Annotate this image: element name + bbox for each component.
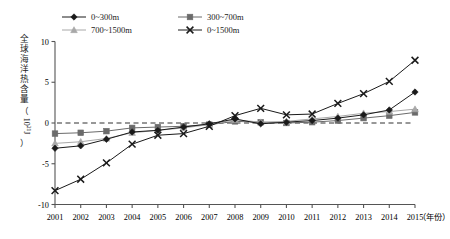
y-tick-label: 10 — [41, 38, 49, 47]
x-tick-label: 2014 — [381, 213, 398, 222]
x-tick-label: 2002 — [72, 213, 89, 222]
series-marker — [412, 89, 418, 95]
y-axis-title-char-3: 洋 — [20, 63, 29, 74]
y-axis-title-paren-open: （ — [20, 106, 29, 116]
series-marker — [104, 128, 110, 134]
series-line — [55, 60, 415, 190]
x-tick-label: 2009 — [252, 213, 269, 222]
x-tick-label: 2007 — [201, 213, 218, 222]
legend-marker — [187, 14, 193, 20]
y-axis-title-char-4: 热 — [20, 73, 29, 84]
legend-item-300-700m: 300~700m — [178, 12, 244, 22]
y-axis-unit-text: 1021J — [22, 118, 32, 135]
x-tick-label: 2010 — [278, 213, 295, 222]
chart-legend: 0~300m300~700m700~1500m0~1500m — [62, 12, 244, 35]
x-tick-label: 2011 — [304, 213, 320, 222]
legend-label: 300~700m — [207, 12, 244, 22]
x-tick-label: 2008 — [227, 213, 244, 222]
y-axis-title-paren-close: ） — [20, 138, 29, 148]
y-tick-label: 0 — [45, 119, 49, 128]
x-tick-label: 2001 — [47, 213, 64, 222]
y-tick-label: -5 — [42, 160, 49, 169]
y-axis-title: 全 球 海 洋 热 含 量 （ 1021J ） — [20, 33, 32, 148]
y-axis-title-char-0: 全 — [20, 33, 29, 44]
x-tick-label: 2006 — [175, 213, 192, 222]
y-axis-title-char-2: 海 — [20, 53, 29, 64]
legend-marker — [71, 14, 77, 20]
plot-area: 1050-5-102001200220032004200520062007200… — [38, 38, 450, 222]
y-tick-label: 5 — [45, 78, 49, 87]
series-marker — [103, 136, 109, 142]
x-tick-label: 2013 — [355, 213, 372, 222]
x-tick-label: 2004 — [124, 213, 141, 222]
legend-label: 700~1500m — [91, 25, 132, 35]
legend-label: 0~300m — [91, 12, 120, 22]
y-axis-title-char-6: 量 — [20, 94, 29, 104]
legend-item-0-300m: 0~300m — [62, 12, 120, 22]
x-tick-label: 2005 — [150, 213, 167, 222]
legend-label: 0~1500m — [207, 25, 240, 35]
y-axis-title-char-5: 含 — [20, 83, 29, 94]
x-tick-label: 2003 — [98, 213, 115, 222]
legend-item-0-1500m: 0~1500m — [178, 25, 240, 35]
series-marker — [412, 106, 419, 112]
series-marker — [78, 130, 84, 136]
chart-figure: 全 球 海 洋 热 含 量 （ 1021J ） 1050-5-102001200… — [0, 0, 450, 239]
ocean-heat-content-line-chart: 全 球 海 洋 热 含 量 （ 1021J ） 1050-5-102001200… — [0, 0, 450, 239]
series-marker — [52, 131, 58, 137]
x-axis-unit-label: （年份） — [418, 212, 450, 222]
series-0-1500m — [52, 57, 419, 194]
y-axis-title-char-1: 球 — [20, 43, 29, 54]
legend-item-700-1500m: 700~1500m — [62, 25, 132, 35]
x-tick-label: 2012 — [330, 213, 347, 222]
y-tick-label: -10 — [38, 201, 49, 210]
